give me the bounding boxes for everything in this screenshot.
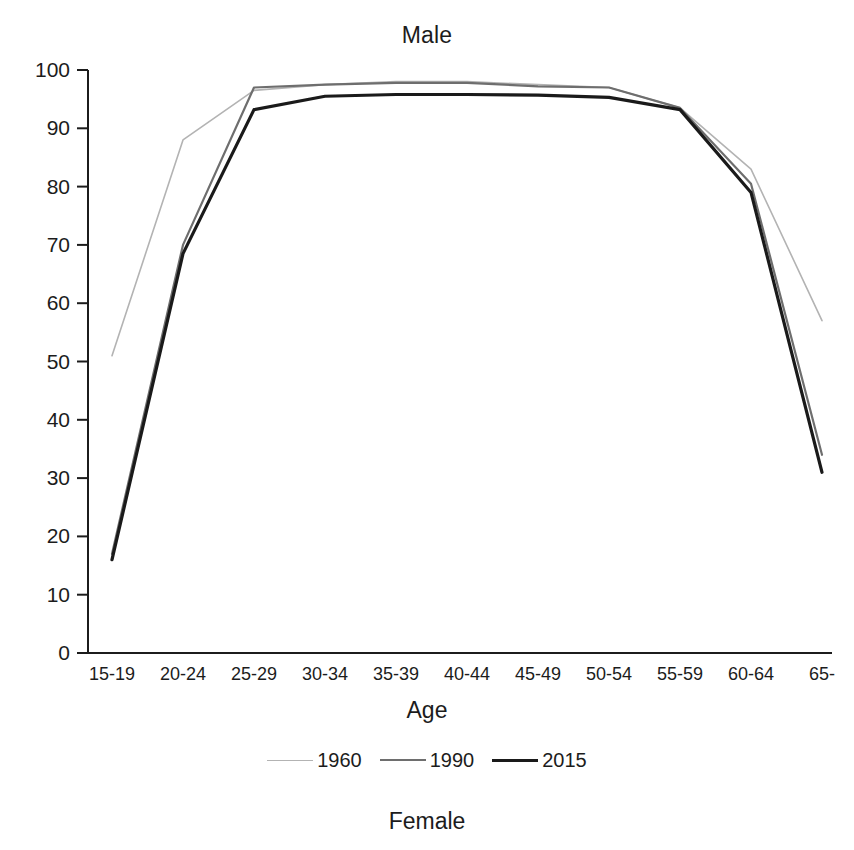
x-tick-label: 40-44 [444,664,490,684]
x-tick-label: 50-54 [586,664,632,684]
legend-item-2015[interactable]: 2015 [492,750,587,770]
x-tick-label: 65- [809,664,835,684]
x-tick-label: 25-29 [231,664,277,684]
x-tick-label: 45-49 [515,664,561,684]
x-tick-label: 55-59 [657,664,703,684]
data-series-lines [112,82,822,560]
y-tick-label: 80 [47,175,70,198]
x-tick-label: 20-24 [160,664,206,684]
legend-item-1960[interactable]: 1960 [267,750,362,770]
y-tick-label: 30 [47,466,70,489]
x-axis-title: Age [0,697,854,724]
figure-caption-female: Female [0,808,854,835]
legend-label: 2015 [542,750,587,770]
x-tick-label: 30-34 [302,664,348,684]
y-tick-label: 0 [58,641,70,664]
legend-label: 1990 [430,750,475,770]
y-tick-label: 40 [47,408,70,431]
x-tick-label: 60-64 [728,664,774,684]
line-chart-plot: 0102030405060708090100 15-1920-2425-2930… [0,0,854,690]
y-tick-label: 60 [47,291,70,314]
y-tick-label: 90 [47,116,70,139]
y-axis-ticks: 0102030405060708090100 [35,58,88,664]
y-tick-label: 10 [47,583,70,606]
y-tick-label: 50 [47,350,70,373]
figure-male-employment-rate-by-age: Male 0102030405060708090100 15-1920-2425… [0,0,854,850]
y-tick-label: 100 [35,58,70,81]
x-axis-ticks: 15-1920-2425-2930-3435-3940-4445-4950-54… [89,664,835,684]
y-tick-label: 20 [47,524,70,547]
y-tick-label: 70 [47,233,70,256]
x-tick-label: 15-19 [89,664,135,684]
x-tick-label: 35-39 [373,664,419,684]
legend-line-swatch-icon [267,760,313,761]
series-line-1960 [112,82,822,356]
legend-label: 1960 [317,750,362,770]
legend-line-swatch-icon [380,759,426,761]
legend-item-1990[interactable]: 1990 [380,750,475,770]
chart-legend: 196019902015 [0,750,854,770]
legend-line-swatch-icon [492,759,538,762]
